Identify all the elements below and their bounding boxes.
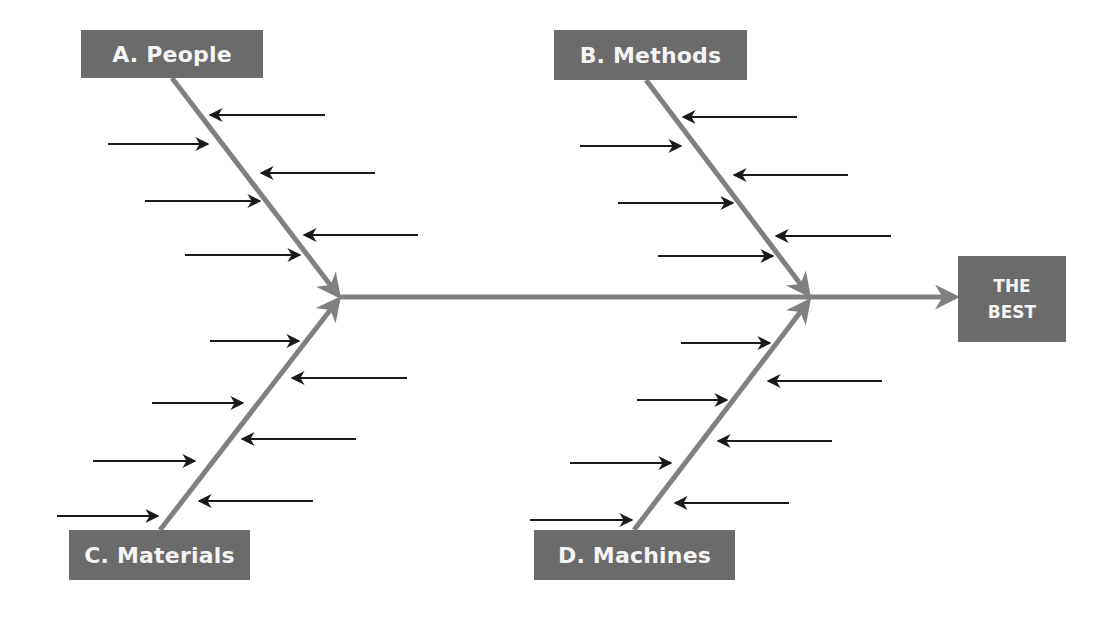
effect-label-line2: BEST: [988, 299, 1036, 325]
fishbone-diagram: [0, 0, 1119, 620]
category-bones: [160, 78, 808, 530]
category-label-methods: B. Methods: [580, 43, 722, 68]
cause-arrows: [57, 115, 891, 520]
bone-c: [160, 300, 338, 530]
category-box-methods: B. Methods: [554, 30, 747, 80]
bone-b: [646, 80, 808, 294]
category-label-machines: D. Machines: [558, 543, 711, 568]
bone-a: [172, 78, 338, 295]
effect-box: THE BEST: [958, 256, 1066, 342]
category-box-materials: C. Materials: [69, 530, 250, 580]
category-label-materials: C. Materials: [84, 543, 235, 568]
effect-label-line1: THE: [993, 273, 1030, 299]
category-box-people: A. People: [81, 30, 263, 78]
category-label-people: A. People: [112, 42, 232, 67]
bone-d: [634, 302, 808, 530]
category-box-machines: D. Machines: [534, 530, 735, 580]
